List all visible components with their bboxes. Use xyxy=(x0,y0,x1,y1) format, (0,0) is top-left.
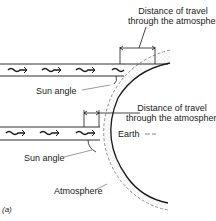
sun-angle-label-top: Sun angle xyxy=(36,86,77,96)
panel-label: (a) xyxy=(2,205,12,215)
lower-sun-beam xyxy=(0,127,100,140)
atmosphere-label: Atmosphere xyxy=(54,186,103,196)
sun-angle-label-bottom: Sun angle xyxy=(24,153,65,163)
earth-label: Earth xyxy=(118,129,140,139)
wavy-arrow-icon xyxy=(6,130,95,136)
upper-sun-angle-arc xyxy=(114,76,117,84)
distance-label-bottom-line2: through the atmosphere xyxy=(126,113,216,123)
distance-label-top-line1: Distance of travel xyxy=(128,6,216,16)
distance-label-bottom-line1: Distance of travel xyxy=(126,103,216,113)
wavy-arrow-icon xyxy=(8,67,124,73)
distance-label-top-line2: through the atmosphere xyxy=(128,16,216,26)
distance-label-top: Distance of travel through the atmospher… xyxy=(128,6,216,26)
distance-label-bottom: Distance of travel through the atmospher… xyxy=(126,103,216,123)
